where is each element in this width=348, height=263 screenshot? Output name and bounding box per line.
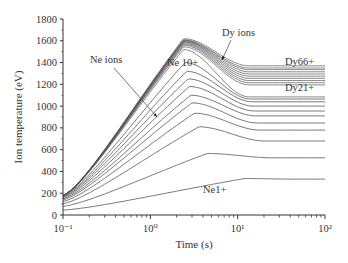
y-tick-label: 1200 xyxy=(36,79,57,90)
curve-dy25plus xyxy=(63,47,325,196)
annotation-label: Dy21+ xyxy=(285,82,314,93)
y-tick-label: 400 xyxy=(41,166,57,177)
x-tick-label: 10² xyxy=(318,223,332,234)
annotation-label: Ne ions xyxy=(90,54,122,65)
y-tick-label: 1400 xyxy=(36,57,57,68)
y-tick-label: 1000 xyxy=(36,101,57,112)
y-tick-label: 1800 xyxy=(36,14,57,25)
y-tick-label: 0 xyxy=(52,210,57,221)
chart: 02004006008001000120014001600180010⁻¹10⁰… xyxy=(0,0,348,263)
y-tick-label: 800 xyxy=(41,122,57,133)
annotation-label: Dy ions xyxy=(222,27,255,38)
y-tick-label: 1600 xyxy=(36,35,57,46)
annotation-label: Ne 10+ xyxy=(167,57,198,68)
y-axis-label: Ion temperature (eV) xyxy=(12,70,25,163)
y-tick-label: 600 xyxy=(41,144,57,155)
annotation-label: Dy66+ xyxy=(285,56,314,67)
y-tick-label: 200 xyxy=(41,188,57,199)
annotation-label: Ne1+ xyxy=(203,184,226,195)
x-tick-label: 10⁰ xyxy=(143,223,158,234)
curve-ne3plus xyxy=(63,127,325,204)
x-tick-label: 10¹ xyxy=(231,223,245,234)
x-tick-label: 10⁻¹ xyxy=(53,223,72,234)
x-axis-label: Time (s) xyxy=(175,238,213,251)
curve-ne1plus xyxy=(63,179,325,211)
axes: 02004006008001000120014001600180010⁻¹10⁰… xyxy=(36,14,332,235)
